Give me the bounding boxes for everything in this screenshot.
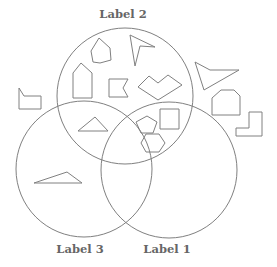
pentagon-shape [136, 116, 157, 133]
venn-diagram: Label 2 Label 3 Label 1 [0, 0, 277, 267]
l-shape-shape [236, 112, 262, 136]
heptagon-shape [91, 38, 111, 63]
set-3-circle [16, 101, 152, 237]
set-label-3: Label 3 [56, 242, 103, 256]
chevron-hexagon-shape [138, 75, 182, 100]
notched-flag-shape [109, 79, 128, 97]
square-shape [160, 109, 179, 129]
hexagon-shape [141, 134, 165, 152]
set-label-1: Label 1 [143, 242, 190, 256]
triangle-obtuse-shape [34, 172, 82, 183]
house-pentagon-shape [73, 63, 92, 98]
arrowhead-shape [130, 35, 155, 66]
set-1-circle [101, 102, 237, 238]
flag-pentagon-shape [19, 88, 41, 109]
set-2-circle [57, 28, 193, 164]
triangle-small-shape [78, 117, 108, 131]
diagram-canvas [0, 0, 277, 267]
kite-arrow-shape [195, 62, 239, 90]
set-label-2: Label 2 [99, 7, 146, 21]
cut-hexagon-shape [212, 90, 240, 115]
